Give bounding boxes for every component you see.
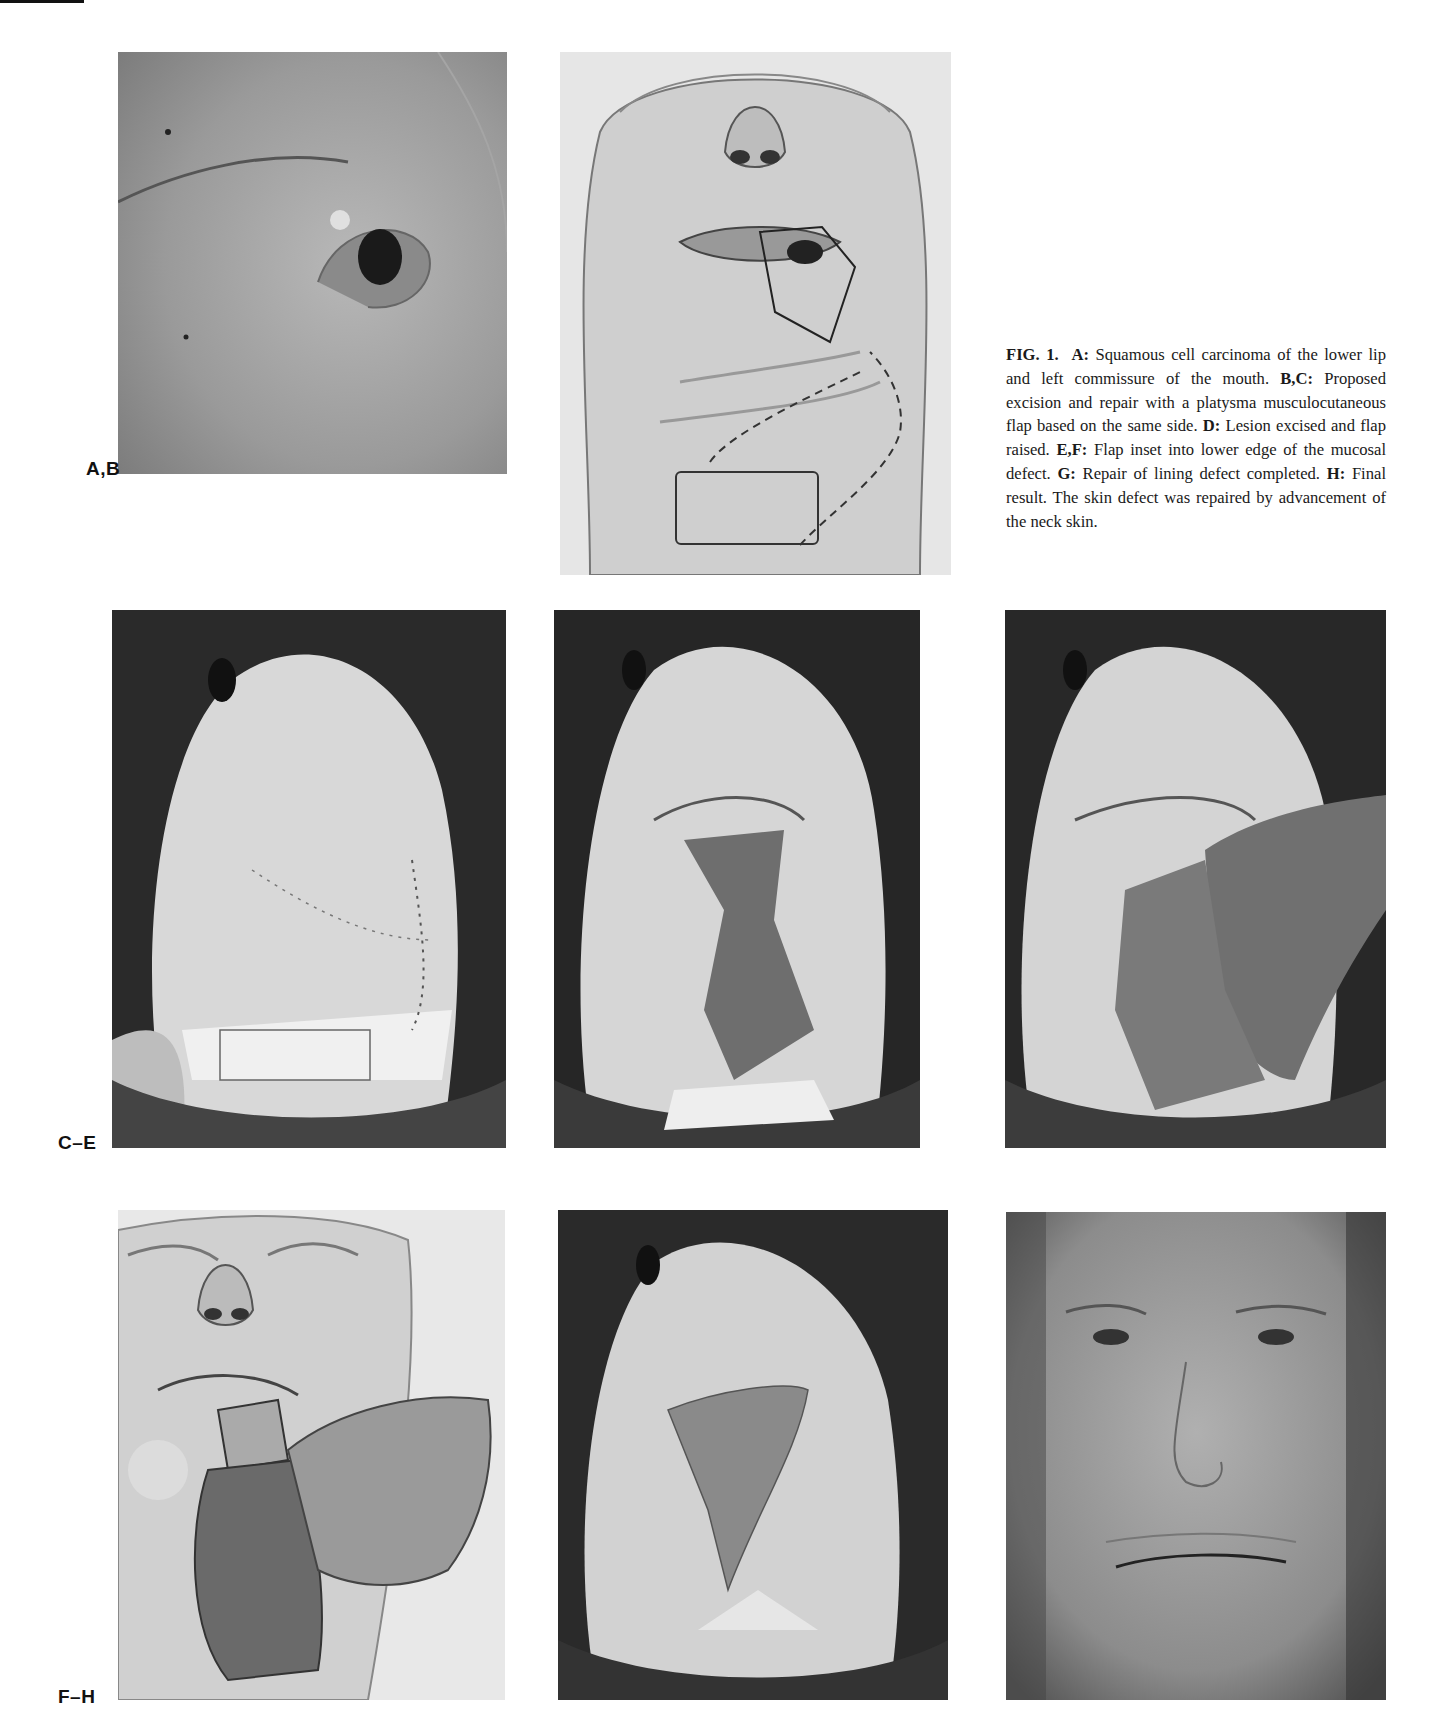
page-header-rule — [0, 0, 84, 3]
panel-e-photo — [1005, 610, 1386, 1148]
row-label-f-h: F–H — [58, 1686, 95, 1708]
caption-key-ef: E,F: — [1056, 440, 1087, 459]
panel-b-illustration — [560, 52, 951, 575]
panel-d-photo — [554, 610, 920, 1148]
panel-c-photo — [112, 610, 506, 1148]
panel-h-photo — [1006, 1212, 1386, 1700]
panel-a-photo — [118, 52, 507, 474]
row-label-a-b: A,B — [86, 458, 120, 480]
caption-text-g: Repair of lining defect completed. — [1076, 464, 1327, 483]
panel-f-illustration — [118, 1210, 505, 1700]
figure-number: FIG. 1. — [1006, 345, 1059, 364]
caption-key-h: H: — [1327, 464, 1345, 483]
caption-key-bc: B,C: — [1280, 369, 1313, 388]
row-label-c-e: C–E — [58, 1132, 96, 1154]
figure-caption: FIG. 1. A: Squamous cell carcinoma of th… — [1006, 343, 1386, 533]
caption-key-d: D: — [1203, 416, 1221, 435]
caption-key-a: A: — [1072, 345, 1090, 364]
panel-g-photo — [558, 1210, 948, 1700]
caption-key-g: G: — [1057, 464, 1075, 483]
